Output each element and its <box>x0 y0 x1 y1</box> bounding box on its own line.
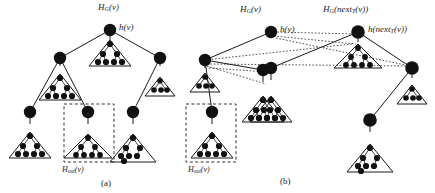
panel-b-root-next-triangle <box>334 44 382 68</box>
panel-a-triangle-3 <box>110 134 156 164</box>
panel-b-right-child-node <box>265 62 277 74</box>
label-hout-v-panel-b: Hout(v) <box>188 165 210 174</box>
caption-panel-a: (a) <box>101 178 111 188</box>
label-hout-v-panel-a: Hout(v) <box>62 165 84 174</box>
panel-b-left-child-triangle <box>190 73 220 92</box>
panel-a-root-node <box>104 24 116 36</box>
panel-a-root-triangle <box>89 40 131 66</box>
figure-root: HG(v) h(v) Hout(v) (a) HG(v) h(v) HG(nex… <box>0 0 435 193</box>
label-h-v-panel-a: h(v) <box>119 22 134 32</box>
label-hg-v-panel-b: HG(v) <box>240 4 261 14</box>
label-hg-v-panel-a: HG(v) <box>98 2 119 12</box>
panel-a-node-left <box>54 52 66 64</box>
label-h-v-panel-b: h(v) <box>280 24 295 34</box>
panel-b-dotted-edges <box>205 32 412 84</box>
panel-b-right-edges <box>271 32 412 132</box>
panel-a-leafnode-2 <box>82 106 94 118</box>
panel-b-root-v-node <box>265 26 277 38</box>
panel-a-triangle-2 <box>64 134 112 158</box>
panel-b-right-leafnode <box>363 113 377 127</box>
caption-panel-b: (b) <box>280 176 291 186</box>
panel-b-root-next-node <box>351 25 365 39</box>
panel-b <box>186 25 427 174</box>
panel-b-left-leafnode-1 <box>206 106 218 118</box>
panel-a <box>9 24 175 164</box>
panel-a-node-right <box>154 52 166 64</box>
label-hg-next-panel-b: HG(nextT(v)) <box>323 4 368 14</box>
panel-a-edges <box>30 30 160 124</box>
panel-b-right-triangle <box>397 85 427 104</box>
panel-a-triangle-1 <box>9 132 51 158</box>
panel-b-left-child-node <box>199 54 211 66</box>
panel-a-leafnode-3 <box>127 106 139 118</box>
panel-b-left-triangle-1 <box>191 132 233 158</box>
panel-a-leafnode-1 <box>24 106 36 118</box>
panel-b-right-bottom-triangle <box>347 144 393 174</box>
label-h-next-panel-b: h(nextT(v)) <box>368 24 407 34</box>
panel-b-right-node <box>405 61 419 75</box>
